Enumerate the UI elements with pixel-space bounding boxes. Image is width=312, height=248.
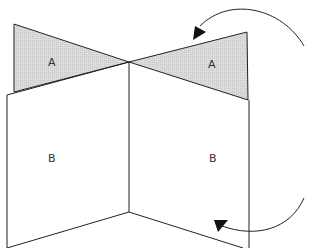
- label-panel-right: B: [209, 152, 217, 165]
- folded-panels-diagram: A A B B: [0, 0, 312, 248]
- floor-line-left: [7, 212, 129, 248]
- panel-left-outline: [7, 62, 129, 248]
- floor-line-right: [129, 212, 243, 248]
- upper-arrowhead-icon: [193, 26, 206, 40]
- lower-arrowhead-icon: [214, 220, 228, 232]
- label-panel-left: B: [48, 152, 56, 165]
- lower-curved-arrow: [222, 198, 304, 231]
- label-triangle-right: A: [208, 58, 216, 71]
- label-triangle-left: A: [48, 56, 56, 69]
- triangle-right: [129, 32, 248, 100]
- triangle-left: [14, 24, 129, 92]
